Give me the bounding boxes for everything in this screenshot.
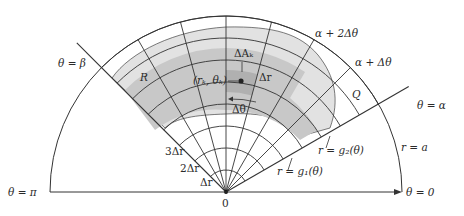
grid-arc [179, 126, 283, 159]
label-r-eq-a: r = a [401, 141, 428, 153]
label-region-q: Q [352, 88, 361, 101]
label-1-delta-r: Δr [200, 176, 214, 188]
label-theta-alpha: θ = α [417, 99, 446, 111]
grid-arc [210, 170, 245, 181]
label-r-eq-g2: r = g₂(θ) [318, 144, 364, 156]
label-delta-a-k: ΔAₖ [234, 47, 254, 59]
label-origin: 0 [222, 197, 229, 209]
label-alpha-plus-dtheta: α + Δθ [355, 56, 392, 68]
sample-point [238, 78, 243, 83]
label-2-delta-r: 2Δr [180, 162, 200, 174]
label-alpha-plus-2dtheta: α + 2Δθ [315, 27, 359, 39]
label-theta-pi: θ = π [8, 186, 38, 198]
label-r-eq-g1: r = g₁(θ) [277, 165, 323, 177]
label-theta-beta: θ = β [58, 57, 86, 69]
label-point-rk-thetak: (rₖ, θₖ) [193, 74, 227, 86]
label-delta-theta-cell: Δθ [232, 103, 246, 115]
label-theta-zero: θ = 0 [406, 186, 435, 198]
label-delta-r-cell: Δr [259, 71, 273, 83]
polar-region-diagram: θ = β θ = α θ = π θ = 0 α + 2Δθ α + Δθ R… [0, 0, 464, 216]
axis-arrow-icon [394, 189, 402, 195]
grid-arc [195, 148, 264, 170]
label-region-r: R [139, 71, 148, 83]
label-3-delta-r: 3Δr [165, 145, 185, 157]
